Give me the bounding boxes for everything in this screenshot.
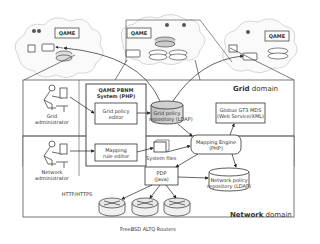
- grid-policy-editor-line2: editor: [95, 114, 137, 120]
- network-domain-bold: Network: [230, 211, 263, 219]
- grid-domain-rest: domain: [250, 85, 278, 93]
- network-admin-label: Network administrator: [34, 169, 70, 181]
- cloud-right-qame-label: QAME: [265, 33, 289, 39]
- cloud-middle-qame-label: QAME: [127, 30, 151, 36]
- grid-policy-repository: Grid policy repository (LDAP): [149, 110, 185, 122]
- pbnm-system-title: QAME PBNM System (PHP): [86, 87, 146, 99]
- mapping-engine: Mapping Engine (PHP): [191, 139, 241, 151]
- globus-line2: (Web Service/XML): [214, 113, 267, 119]
- routers-label: FreeBSD ALTQ Routers: [113, 226, 183, 232]
- mapping-rule-editor: Mapping rule editor: [95, 147, 137, 159]
- cloud-left-qame-label: QAME: [55, 30, 79, 36]
- network-policy-repo-line2: repository (LDAP): [207, 183, 251, 189]
- pbnm-title-line2: System (PHP): [86, 93, 146, 99]
- grid-domain-bold: Grid: [233, 85, 250, 93]
- router-icon: [164, 198, 190, 216]
- globus-mds: Globus GT3 MDS (Web Service/XML): [214, 107, 267, 119]
- grid-admin-line2: administrator: [34, 119, 70, 125]
- grid-policy-editor: Grid policy editor: [95, 108, 137, 120]
- network-domain-label: Network domain: [230, 211, 292, 219]
- network-domain-rest: domain: [263, 211, 291, 219]
- router-icon: [132, 198, 158, 216]
- grid-admin-label: Grid administrator: [34, 113, 70, 125]
- grid-domain-label: Grid domain: [233, 85, 278, 93]
- protocol-label: HTTP/HTTPS: [60, 191, 94, 197]
- network-admin-line2: administrator: [34, 175, 70, 181]
- pdp-line2: (Java): [145, 176, 178, 182]
- router-icon: [99, 198, 125, 216]
- grid-policy-repo-line2: repository (LDAP): [149, 116, 185, 122]
- pdp: PDP (Java): [145, 170, 178, 182]
- mapping-rule-editor-line2: rule editor: [95, 153, 137, 159]
- network-policy-repository: Network policy repository (LDAP): [207, 177, 251, 189]
- system-files-label: System files: [146, 155, 176, 161]
- mapping-engine-line2: (PHP): [191, 145, 241, 151]
